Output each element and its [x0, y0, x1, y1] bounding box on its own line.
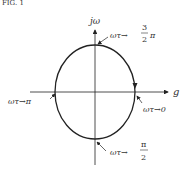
direction-arrow-icon: [133, 83, 138, 89]
top-annotation-suffix: π: [149, 31, 156, 40]
top-annotation-prefix: ωτ→: [110, 31, 128, 40]
top-pointer-arrow: [98, 37, 108, 44]
left-pointer-arrow: [50, 94, 55, 99]
bottom-annotation-frac-num: π: [141, 140, 146, 149]
vertical-axis-label: jω: [88, 16, 101, 26]
horizontal-axis-label: g: [173, 86, 179, 97]
top-annotation-frac-num: 3: [142, 23, 147, 32]
right-annotation: ωτ→0: [143, 105, 166, 114]
bottom-annotation-prefix: ωτ→: [110, 148, 128, 157]
left-annotation: ωτ→π: [8, 97, 32, 106]
bottom-pointer-arrow: [97, 142, 106, 151]
top-annotation-frac-den: 2: [142, 35, 147, 44]
bottom-annotation-frac-den: 2: [141, 153, 146, 162]
ellipse-locus-diagram: FIG. 1 jω g ωτ→ 3 2 π ωτ→π ωτ→0 ωτ→ π 2: [0, 0, 186, 172]
right-pointer-arrow: [137, 96, 142, 103]
caption-fragment: FIG. 1: [2, 0, 24, 7]
